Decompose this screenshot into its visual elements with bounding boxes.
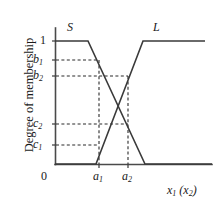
y-tick-label-c1-sub: 1 [38,143,42,152]
y-tick-label-c2: c2 [33,117,42,129]
origin-label: 0 [41,170,47,182]
x-tick-label-a2: a2 [122,170,132,182]
axes-group [55,28,212,165]
x-axis-title: x1 (x2) [167,184,197,196]
y-tick-label-b1-sub: 1 [39,58,43,67]
y-tick-label-b2: b2 [33,69,43,81]
x-axis-title-mid: (x [176,183,188,197]
y-tick-label-b1: b1 [33,53,43,65]
curve-label-l: L [153,21,160,33]
y-tick-label-b2-sub: 2 [39,74,43,83]
curve-l [55,41,205,164]
y-axis-title: Degree of membership [19,15,37,175]
y-tick-label-1: 1 [40,34,46,46]
x-axis-title-sub1: 1 [172,189,176,198]
x-axis-title-sub2: 2 [189,189,193,198]
x-axis-title-close: ) [193,183,197,197]
x-tick-label-a1-sub: 1 [99,175,103,184]
y-tick-label-c1: c1 [33,138,42,150]
curve-label-s: S [67,21,73,33]
x-tick-label-a1: a1 [93,170,103,182]
x-tick-label-a2-sub: 2 [128,175,132,184]
y-tick-label-c2-sub: 2 [38,122,42,131]
fuzzy-membership-figure: Degree of membership 1 b1 b2 c2 c1 0 a1 … [0,0,222,207]
